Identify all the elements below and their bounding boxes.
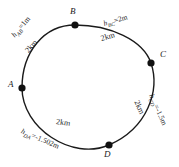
station-dot-d <box>105 141 112 148</box>
leg-bc-height-value: =2m <box>113 12 129 24</box>
loop-circuit-path <box>22 25 154 149</box>
leveling-loop-figure: A B C D hAB=1m 2km hBC=2m 2km hCD=-1.5m … <box>0 0 179 167</box>
station-label-b: B <box>70 7 76 16</box>
station-label-a: A <box>8 80 14 89</box>
station-dot-c <box>147 59 154 66</box>
station-dot-a <box>18 84 25 91</box>
station-label-c: C <box>160 50 166 59</box>
station-dot-b <box>71 21 78 28</box>
station-label-d: D <box>104 150 111 159</box>
